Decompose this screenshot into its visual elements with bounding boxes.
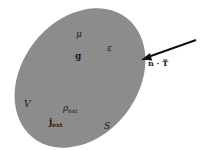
arrow-label: n̂ · T̿	[148, 59, 168, 67]
g-label: g	[75, 52, 81, 61]
volume-region	[0, 0, 172, 150]
rho-ext-label: ρext	[63, 104, 78, 114]
j-ext-label: jext	[49, 118, 62, 128]
traction-arrow	[141, 40, 196, 60]
volume-label: V	[24, 100, 31, 109]
surface-label: S	[104, 122, 110, 131]
rho-subscript: ext	[68, 107, 77, 114]
epsilon-label: ε	[107, 44, 112, 53]
diagram-canvas: μ g ε V ρext jext S n̂ · T̿	[0, 0, 208, 150]
j-subscript: ext	[52, 121, 62, 128]
mu-label: μ	[76, 30, 82, 39]
